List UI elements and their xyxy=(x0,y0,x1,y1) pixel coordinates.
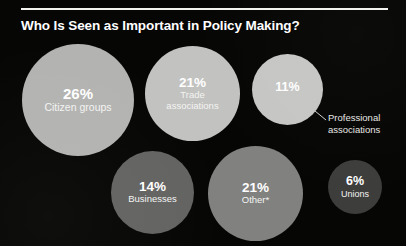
bubble-value-trade-associations: 21% xyxy=(179,76,206,90)
bubble-chart-infographic: Who Is Seen as Important in Policy Makin… xyxy=(0,0,406,246)
bubble-citizen-groups: 26% Citizen groups xyxy=(22,44,134,156)
bubble-professional-associations: 11% xyxy=(252,54,323,125)
bubble-label-other: Other* xyxy=(242,195,269,206)
bubble-label-unions: Unions xyxy=(341,189,369,199)
bubble-businesses: 14% Businesses xyxy=(111,151,194,234)
leader-line-icon xyxy=(314,110,327,121)
bubble-label-trade-associations-line2: associations xyxy=(166,101,218,112)
callout-professional-associations: Professional associations xyxy=(328,112,402,136)
bubble-label-trade-associations-line1: Trade xyxy=(180,90,204,101)
page-title: Who Is Seen as Important in Policy Makin… xyxy=(21,18,391,33)
bubble-value-professional-associations: 11% xyxy=(275,81,299,94)
callout-label-line2: associations xyxy=(328,124,402,136)
bubble-value-citizen-groups: 26% xyxy=(63,86,93,102)
title-rule xyxy=(21,8,388,10)
bubble-value-unions: 6% xyxy=(346,175,364,188)
bubble-label-businesses: Businesses xyxy=(128,194,177,205)
bubble-label-citizen-groups: Citizen groups xyxy=(44,102,111,114)
bubble-value-businesses: 14% xyxy=(139,180,166,194)
bubble-value-other: 21% xyxy=(242,181,269,195)
bubble-other: 21% Other* xyxy=(208,146,303,241)
bubble-trade-associations: 21% Trade associations xyxy=(145,46,240,141)
bubble-unions: 6% Unions xyxy=(328,160,382,214)
callout-label-line1: Professional xyxy=(328,112,402,124)
